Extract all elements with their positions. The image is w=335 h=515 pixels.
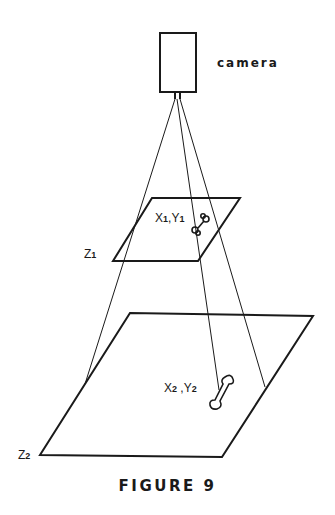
plane-z1-label: Z1 [84,247,96,261]
z2-subscript: 2 [25,451,30,461]
point-label-1: X1,Y1 [155,211,184,225]
y2-symbol: Y [184,381,192,395]
x1-symbol: X [155,211,163,225]
y1-subscript: 1 [179,214,184,224]
x2-sep: , [177,381,184,395]
bone-icon-2 [210,375,234,409]
ray-right [180,99,265,387]
plane-z2-label: Z2 [18,448,30,462]
ray-center [177,99,219,390]
point-label-2: X2 ,Y2 [164,381,197,395]
ray-left [85,99,175,384]
x2-symbol: X [164,381,172,395]
camera-label: camera [217,56,279,70]
figure-caption: FIGURE 9 [0,477,335,495]
bone-icon-1 [192,214,209,235]
camera-body [160,33,196,92]
z1-subscript: 1 [91,250,96,260]
y2-subscript: 2 [192,384,197,394]
plane-z1 [113,198,240,261]
diagram-canvas [0,0,335,515]
